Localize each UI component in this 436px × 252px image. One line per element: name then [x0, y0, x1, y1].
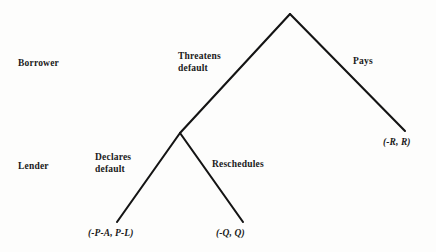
payoff-pays: (-R, R) [383, 137, 411, 147]
edge-label-pays: Pays [353, 56, 373, 68]
player-label-borrower: Borrower [18, 58, 59, 68]
branch-reschedules [180, 133, 243, 222]
tree-branches [0, 0, 436, 252]
payoff-declares-default: (-P-A, P-L) [88, 228, 133, 238]
game-tree-figure: Borrower Lender Threatens default Pays D… [0, 0, 436, 252]
payoff-reschedules: (-Q, Q) [216, 228, 245, 238]
branch-pays [290, 14, 405, 131]
player-label-lender: Lender [18, 161, 49, 171]
edge-label-threatens-default: Threatens default [178, 51, 221, 74]
branch-declares-default [117, 133, 180, 222]
edge-label-declares-default: Declares default [95, 152, 131, 175]
edge-label-reschedules: Reschedules [212, 159, 264, 171]
